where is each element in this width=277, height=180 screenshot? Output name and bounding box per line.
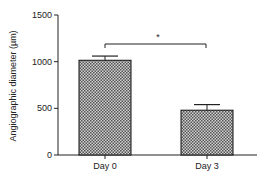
significance-bracket: * xyxy=(105,32,206,48)
y-axis-title: Angiographic diameter (µm) xyxy=(8,30,18,141)
y-tick-label: 1500 xyxy=(32,10,52,20)
y-tick-label: 0 xyxy=(47,150,52,160)
x-tick-label: Day 3 xyxy=(195,161,219,171)
bar-day-0 xyxy=(79,60,131,155)
y-ticks: 050010001500 xyxy=(32,10,58,160)
x-ticks: Day 0Day 3 xyxy=(93,155,219,171)
x-tick-label: Day 0 xyxy=(93,161,117,171)
bars xyxy=(79,56,233,155)
bar-day-3 xyxy=(181,110,233,155)
y-tick-label: 1000 xyxy=(32,57,52,67)
bar-chart: Angiographic diameter (µm) 050010001500 … xyxy=(0,0,277,180)
significance-star: * xyxy=(156,32,160,42)
y-tick-label: 500 xyxy=(37,103,52,113)
